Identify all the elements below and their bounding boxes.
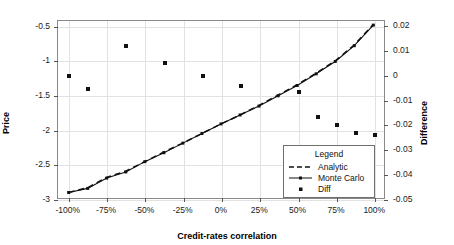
y-tick-label-right: -0.03 [393, 145, 412, 154]
diff-point [373, 133, 377, 137]
x-tick-label: -75% [96, 206, 116, 215]
line-marker-icon [288, 173, 314, 183]
y-tick-label-right: -0.04 [393, 170, 412, 179]
x-tick [299, 198, 300, 202]
legend-item-label: Analytic [318, 162, 348, 172]
chart-figure: Price Difference Credit-rates correlatio… [0, 0, 454, 245]
y-tick-right [384, 175, 388, 176]
x-tick-label: -50% [134, 206, 154, 215]
y-tick-label-right: 0.02 [393, 21, 410, 30]
monte-carlo-marker [315, 72, 318, 75]
x-tick [222, 198, 223, 202]
x-tick-label: 75% [327, 206, 344, 215]
monte-carlo-marker [372, 24, 375, 27]
y-tick-right [384, 150, 388, 151]
x-tick [375, 198, 376, 202]
y-tick-label-right: 0 [393, 70, 398, 79]
monte-carlo-marker [334, 60, 337, 63]
y-tick-label-right: 0.01 [393, 46, 410, 55]
monte-carlo-marker [105, 177, 108, 180]
x-tick-label: 25% [251, 206, 268, 215]
y-tick-right [384, 26, 388, 27]
y-tick-right [384, 76, 388, 77]
monte-carlo-marker [162, 151, 165, 154]
monte-carlo-marker [86, 187, 89, 190]
x-tick-label: 50% [289, 206, 306, 215]
y-tick-label-right: -0.05 [393, 195, 412, 204]
monte-carlo-marker [296, 84, 299, 87]
monte-carlo-marker [200, 132, 203, 135]
x-tick [145, 198, 146, 202]
x-tick-label: 100% [363, 206, 385, 215]
y-axis-title-right: Difference [419, 100, 429, 144]
diff-point [239, 84, 243, 88]
monte-carlo-marker [277, 94, 280, 97]
monte-carlo-marker [143, 160, 146, 163]
legend-title: Legend [288, 149, 370, 159]
x-tick [260, 198, 261, 202]
diff-point [67, 74, 71, 78]
legend-item-label: Monte Carlo [318, 173, 364, 183]
y-tick-left [54, 200, 58, 201]
x-tick-label: -25% [173, 206, 193, 215]
legend-item-analytic[interactable]: Analytic [288, 161, 370, 172]
diff-point [201, 74, 205, 78]
y-tick-label-right: -0.02 [393, 120, 412, 129]
monte-carlo-marker [124, 170, 127, 173]
monte-carlo-marker [181, 142, 184, 145]
legend-box[interactable]: Legend AnalyticMonte CarloDiff [283, 145, 375, 198]
y-tick-label-left: -2 [14, 125, 50, 134]
y-tick-label-left: -2.5 [14, 160, 50, 169]
monte-carlo-marker [258, 105, 261, 108]
diff-point [86, 87, 90, 91]
x-tick [107, 198, 108, 202]
y-tick-right [384, 51, 388, 52]
x-tick [69, 198, 70, 202]
y-tick-label-right: -0.01 [393, 95, 412, 104]
y-tick-right [384, 125, 388, 126]
x-tick [184, 198, 185, 202]
y-tick-label-left: -1.5 [14, 91, 50, 100]
square-point-icon [288, 184, 314, 194]
diff-point [335, 123, 339, 127]
y-tick-label-left: -1 [14, 56, 50, 65]
x-axis-title: Credit-rates correlation [177, 231, 277, 241]
legend-rows: AnalyticMonte CarloDiff [288, 161, 370, 194]
monte-carlo-marker [220, 122, 223, 125]
monte-carlo-marker [239, 114, 242, 117]
x-tick [337, 198, 338, 202]
diff-point [354, 131, 358, 135]
x-tick-label: -100% [55, 206, 80, 215]
dashed-line-icon [288, 162, 314, 172]
legend-item-diff[interactable]: Diff [288, 183, 370, 194]
monte-carlo-marker [353, 44, 356, 47]
diff-point [124, 44, 128, 48]
diff-point [163, 61, 167, 65]
y-tick-label-left: -0.5 [14, 21, 50, 30]
diff-point [297, 90, 301, 94]
legend-item-label: Diff [318, 184, 331, 194]
x-tick-label: 0% [215, 206, 227, 215]
y-axis-title-left: Price [1, 111, 11, 133]
diff-point [316, 115, 320, 119]
y-tick-right [384, 200, 388, 201]
y-tick-label-left: -3 [14, 195, 50, 204]
legend-item-monte-carlo[interactable]: Monte Carlo [288, 172, 370, 183]
monte-carlo-marker [67, 191, 70, 194]
y-tick-right [384, 101, 388, 102]
